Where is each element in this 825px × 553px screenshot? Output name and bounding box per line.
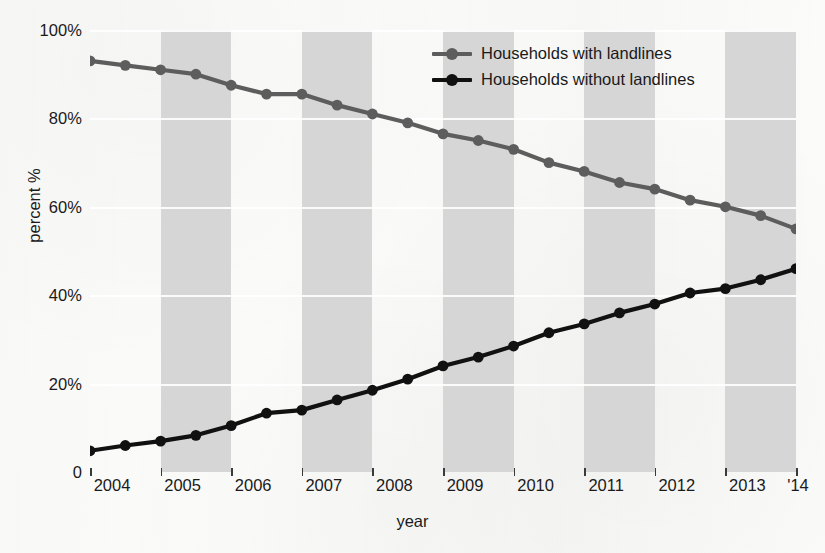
data-point (579, 319, 590, 330)
x-tick-mark (514, 468, 516, 476)
data-point (791, 263, 796, 274)
data-point (155, 436, 166, 447)
data-point (367, 109, 378, 120)
data-point (755, 274, 766, 285)
plot-area (90, 30, 796, 472)
chart-legend: Households with landlinesHouseholds with… (432, 44, 695, 89)
data-point (402, 374, 413, 385)
data-point (296, 405, 307, 416)
y-tick-label: 0 (73, 463, 82, 482)
x-tick-label: 2005 (164, 476, 201, 495)
data-point (120, 440, 131, 451)
y-tick-label: 20% (49, 374, 82, 393)
x-tick-label: 2011 (588, 476, 623, 495)
line-chart-figure: 100%80%60%40%20%0 percent % 200420052006… (0, 0, 825, 553)
data-point (226, 420, 237, 431)
legend-label: Households with landlines (481, 44, 672, 63)
data-point (649, 184, 660, 195)
x-tick-mark (796, 468, 798, 476)
data-point (332, 395, 343, 406)
data-point (614, 177, 625, 188)
data-point (90, 445, 95, 456)
y-tick-label: 80% (49, 109, 82, 128)
x-tick-mark (443, 468, 445, 476)
x-axis-title: year (0, 512, 825, 531)
data-point (579, 166, 590, 177)
x-tick-label: 2007 (305, 476, 342, 495)
x-tick-label: 2004 (94, 476, 131, 495)
x-tick-label: '14 (787, 476, 809, 495)
x-axis-ticks: 2004200520062007200820092010201120122013… (90, 476, 796, 502)
data-point (261, 89, 272, 100)
legend-item: Households without landlines (432, 70, 695, 89)
data-point (685, 195, 696, 206)
data-point (720, 201, 731, 212)
x-tick-label: 2008 (376, 476, 413, 495)
data-point (155, 64, 166, 75)
y-tick-label: 100% (39, 21, 82, 40)
y-axis-ticks: 100%80%60%40%20%0 (0, 0, 82, 553)
data-point (508, 144, 519, 155)
y-axis-title: percent % (25, 146, 44, 266)
y-tick-label: 60% (49, 197, 82, 216)
data-point (438, 361, 449, 372)
data-point (685, 288, 696, 299)
data-point (367, 385, 378, 396)
data-point (120, 60, 131, 71)
x-tick-mark (372, 468, 374, 476)
data-point (90, 56, 95, 67)
data-point (614, 307, 625, 318)
data-point (508, 341, 519, 352)
x-tick-mark (90, 468, 92, 476)
data-point (544, 327, 555, 338)
legend-marker-icon (432, 47, 472, 61)
x-tick-mark (584, 468, 586, 476)
data-point (296, 89, 307, 100)
data-point (473, 135, 484, 146)
data-point (473, 352, 484, 363)
data-point (402, 117, 413, 128)
y-tick-label: 40% (49, 286, 82, 305)
x-tick-label: 2006 (235, 476, 272, 495)
data-point (226, 80, 237, 91)
data-point (755, 210, 766, 221)
x-tick-label: 2010 (517, 476, 554, 495)
data-point (191, 430, 202, 441)
x-tick-mark (655, 468, 657, 476)
series-plot (90, 30, 796, 472)
x-tick-label: 2013 (729, 476, 766, 495)
data-point (332, 100, 343, 111)
x-tick-label: 2009 (447, 476, 484, 495)
data-point (438, 128, 449, 139)
data-point (649, 299, 660, 310)
x-tick-mark (231, 468, 233, 476)
legend-label: Households without landlines (481, 70, 695, 89)
x-tick-label: 2012 (658, 476, 695, 495)
data-point (261, 408, 272, 419)
legend-item: Households with landlines (432, 44, 695, 63)
x-tick-mark (725, 468, 727, 476)
x-tick-mark (302, 468, 304, 476)
data-point (191, 69, 202, 80)
series-2 (90, 263, 796, 456)
data-point (544, 157, 555, 168)
data-point (720, 283, 731, 294)
x-tick-mark (161, 468, 163, 476)
legend-marker-icon (432, 73, 472, 87)
